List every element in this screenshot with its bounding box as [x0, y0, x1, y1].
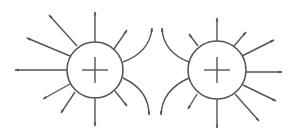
left-field-line-arrow: [27, 38, 70, 56]
right-field-line-arrow: [243, 85, 276, 101]
left-field-line-arrow: [43, 84, 70, 99]
curved-field-line-arrow: [123, 28, 152, 62]
right-field-line-arrow: [242, 40, 274, 56]
left-field-line-arrow: [49, 15, 77, 46]
diagram-canvas: [0, 0, 298, 140]
right-field-line-arrow: [188, 94, 197, 109]
curved-field-line-arrow: [161, 78, 189, 115]
curved-field-line-arrow: [123, 78, 149, 115]
right-positive-charge: [188, 41, 246, 99]
left-field-line-arrow: [115, 91, 127, 106]
curved-field-line-arrow: [162, 28, 189, 62]
left-positive-charge: [67, 42, 123, 98]
right-field-line-arrow: [189, 34, 198, 46]
field-lines-diagram: Electric field lines of two equal positi…: [0, 0, 298, 140]
point-charges: [67, 41, 246, 99]
left-field-line-arrow: [114, 30, 127, 49]
right-field-line-arrow: [234, 32, 246, 46]
repelling-curved-field-lines: [123, 28, 189, 115]
left-field-line-arrow: [61, 92, 75, 113]
right-field-line-arrow: [235, 94, 259, 121]
